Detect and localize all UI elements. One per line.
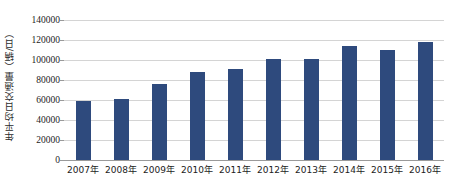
bar bbox=[266, 59, 281, 160]
x-axis-tick-labels: 2007年2008年2009年2010年2011年2012年2013年2014年… bbox=[64, 163, 444, 183]
bar bbox=[418, 42, 433, 160]
x-axis-tick-label: 2012年 bbox=[257, 163, 289, 176]
x-axis-tick-label: 2013年 bbox=[295, 163, 327, 176]
plot-area bbox=[64, 20, 444, 160]
bar bbox=[380, 50, 395, 160]
y-axis-tick-labels: 020000400006000080000100000120000140000 bbox=[18, 0, 64, 196]
x-axis-tick-label: 2015年 bbox=[371, 163, 403, 176]
y-axis-tick-label: 140000 bbox=[32, 15, 61, 25]
bars-layer bbox=[64, 20, 444, 160]
y-axis-title-label: 年平均日交通量（辆/日） bbox=[5, 28, 15, 141]
bar bbox=[190, 72, 205, 160]
x-axis-tick-label: 2007年 bbox=[67, 163, 99, 176]
x-axis-tick-label: 2009年 bbox=[143, 163, 175, 176]
x-axis-tick-label: 2010年 bbox=[181, 163, 213, 176]
y-axis-tick-label: 60000 bbox=[36, 95, 60, 105]
bar-chart: 年平均日交通量（辆/日） 020000400006000080000100000… bbox=[0, 0, 452, 196]
y-axis-tick-label: 120000 bbox=[32, 35, 61, 45]
bar bbox=[304, 59, 319, 160]
x-axis-tick-label: 2014年 bbox=[333, 163, 365, 176]
y-axis-tick-label: 100000 bbox=[32, 55, 61, 65]
bar bbox=[76, 101, 91, 160]
bar bbox=[114, 99, 129, 160]
y-axis-tick-mark bbox=[60, 160, 64, 161]
y-axis-title: 年平均日交通量（辆/日） bbox=[0, 0, 20, 170]
bar bbox=[342, 46, 357, 160]
x-axis-tick-label: 2011年 bbox=[219, 163, 251, 176]
gridline bbox=[64, 160, 444, 161]
y-axis-tick-label: 40000 bbox=[36, 115, 60, 125]
bar bbox=[228, 69, 243, 160]
x-axis-tick-label: 2008年 bbox=[105, 163, 137, 176]
bar bbox=[152, 84, 167, 160]
y-axis-tick-label: 20000 bbox=[36, 135, 60, 145]
x-axis-tick-label: 2016年 bbox=[409, 163, 441, 176]
y-axis-tick-label: 80000 bbox=[36, 75, 60, 85]
